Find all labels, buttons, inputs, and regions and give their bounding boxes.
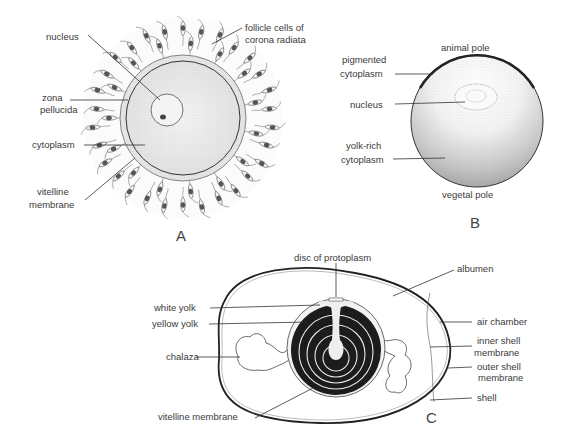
label-nucleus-a: nucleus: [46, 31, 79, 42]
label-outer-shell-membrane: membrane: [478, 372, 523, 383]
label-chalaza: chalaza: [166, 351, 199, 362]
label-albumen: albumen: [457, 263, 493, 274]
label-pigmented-cytoplasm: cytoplasm: [340, 68, 383, 79]
label-pellucida: pellucida: [40, 104, 78, 115]
nucleus-b: [455, 84, 497, 110]
label-membrane-a: membrane: [29, 199, 74, 210]
label-yolk-rich: yolk-rich: [346, 140, 381, 151]
nucleus-a: [151, 94, 183, 126]
label-yolk-rich-cytoplasm: cytoplasm: [341, 154, 384, 165]
label-yellow-yolk: yellow yolk: [152, 318, 198, 329]
egg-cells-diagram: nucleus follicle cells of corona radiata…: [0, 0, 572, 446]
label-zona: zona: [42, 92, 63, 103]
label-white-yolk: white yolk: [153, 302, 196, 313]
label-outer-shell: outer shell: [477, 361, 521, 372]
figure-b-amphibian-egg: animal pole pigmented cytoplasm nucleus …: [340, 42, 543, 231]
label-inner-shell-membrane: membrane: [474, 347, 519, 358]
figure-a-oocyte: nucleus follicle cells of corona radiata…: [29, 16, 306, 244]
nucleolus: [160, 115, 166, 120]
label-disc-of-protoplasm: disc of protoplasm: [294, 252, 371, 263]
label-shell: shell: [477, 392, 497, 403]
label-follicle-cells: follicle cells of: [245, 22, 304, 33]
label-inner-shell: inner shell: [477, 335, 520, 346]
figure-c-bird-egg: disc of protoplasm albumen white yolk ye…: [152, 252, 527, 426]
label-cytoplasm-a: cytoplasm: [32, 139, 75, 150]
disc-of-protoplasm: [329, 298, 343, 301]
label-vitelline-a: vitelline: [37, 186, 69, 197]
label-vitelline-membrane-c: vitelline membrane: [158, 411, 238, 422]
panel-label-a: A: [176, 227, 186, 244]
label-nucleus-b: nucleus: [350, 99, 383, 110]
panel-label-c: C: [426, 409, 437, 426]
label-pigmented: pigmented: [342, 54, 386, 65]
panel-label-b: B: [470, 214, 480, 231]
label-corona-radiata: corona radiata: [245, 34, 306, 45]
label-vegetal-pole: vegetal pole: [442, 189, 493, 200]
label-air-chamber: air chamber: [477, 316, 527, 327]
label-animal-pole: animal pole: [441, 42, 490, 53]
